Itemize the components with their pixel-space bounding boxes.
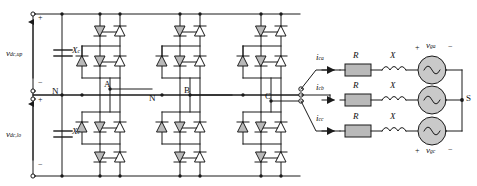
label-phase-b: B	[184, 85, 190, 95]
label-neutral-left: N	[52, 86, 59, 96]
label-vdc-up: vdc,up	[6, 48, 22, 58]
label-icb: icb	[316, 82, 324, 92]
label-plus-upper: +	[38, 13, 43, 22]
label-x-b: X	[390, 80, 396, 90]
label-vga: vga	[426, 40, 436, 50]
label-xc-lower: Xc	[72, 126, 80, 136]
star-point-dot	[460, 98, 464, 102]
label-r-b: R	[353, 80, 359, 90]
label-phase-a: A	[104, 79, 111, 89]
label-vga-plus: +	[415, 43, 420, 52]
circuit-diagram	[0, 0, 477, 186]
label-x-c: X	[390, 111, 396, 121]
label-minus-lower: −	[38, 160, 43, 169]
label-icc: icc	[316, 113, 323, 123]
ac-line-c	[322, 117, 462, 145]
label-vgc-plus: +	[415, 146, 420, 155]
label-vdc-lo: vdc,lo	[6, 129, 21, 139]
label-x-a: X	[390, 50, 396, 60]
capacitor-lower	[54, 131, 72, 137]
label-neutral-mid: N	[149, 93, 156, 103]
label-r-a: R	[353, 50, 359, 60]
label-plus-lower: +	[38, 95, 43, 104]
label-ica: ica	[316, 52, 324, 62]
label-phase-c: C	[265, 91, 271, 101]
label-star-point-s: S	[466, 93, 471, 103]
label-vgc-minus: −	[448, 145, 453, 154]
ac-line-b	[322, 86, 462, 114]
capacitor-upper	[54, 50, 72, 56]
label-xc-upper: Xc	[72, 45, 80, 55]
label-r-c: R	[353, 111, 359, 121]
label-vgc: vgc	[426, 145, 435, 155]
label-vga-minus: −	[448, 42, 453, 51]
label-minus-upper: −	[38, 78, 43, 87]
